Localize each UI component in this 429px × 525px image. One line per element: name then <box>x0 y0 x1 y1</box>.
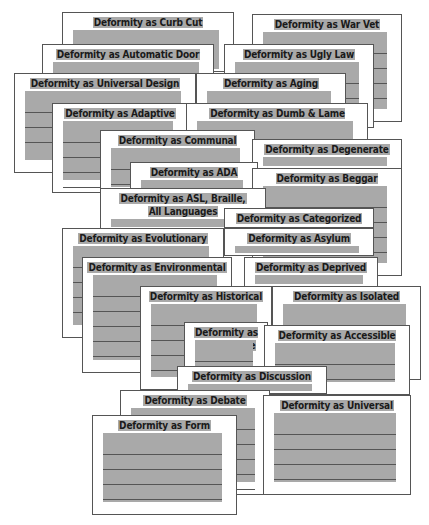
card-universal: Deformity as Universal <box>263 395 411 495</box>
card-title: Deformity as Historical <box>141 290 271 303</box>
card-rule-line <box>274 434 396 435</box>
card-title: Deformity as Debate <box>121 394 269 407</box>
card-fill-area <box>255 275 363 284</box>
card-title: Deformity as ADA <box>131 166 257 179</box>
card-rule-line <box>103 484 222 485</box>
card-fill-area <box>274 413 396 482</box>
card-title: Deformity as Evolutionary <box>63 232 223 245</box>
card-deprived: Deformity as Deprived <box>244 257 378 287</box>
card-title: Deformity as Asylum <box>225 232 373 245</box>
card-rule-line <box>195 361 253 362</box>
card-title: Deformity as Universal <box>264 399 410 412</box>
card-title: Deformity as Deprived <box>245 261 377 274</box>
card-title: Deformity as Environmental <box>83 261 231 274</box>
card-rule-line <box>274 479 396 480</box>
card-title: Deformity as Aging <box>197 77 345 90</box>
card-degenerate: Deformity as Degenerate <box>252 139 402 169</box>
card-title: Deformity as Form <box>93 419 236 432</box>
card-asylum: Deformity as Asylum <box>224 228 374 256</box>
card-rule-line <box>274 449 396 450</box>
card-title: Deformity as Universal Design <box>15 77 195 90</box>
card-title: Deformity as Ugly Law <box>225 48 373 61</box>
card-title: Deformity as Categorized <box>225 212 373 225</box>
card-fill-area <box>263 157 387 166</box>
card-title: Deformity as Isolated <box>273 290 420 303</box>
card-rule-line <box>103 469 222 470</box>
card-title: Deformity as War Vet <box>253 18 401 31</box>
card-categorized: Deformity as Categorized <box>224 208 374 228</box>
card-title: Deformity as Accessible <box>265 329 409 342</box>
card-title: Deformity as Communal <box>101 134 254 147</box>
card-title: Deformity as Curb Cut <box>63 16 233 29</box>
card-rule-line <box>274 464 396 465</box>
card-fill-area <box>235 246 359 253</box>
card-rule-line <box>275 364 395 365</box>
card-title: Deformity as Degenerate <box>253 143 401 156</box>
card-form: Deformity as Form <box>92 415 237 515</box>
card-rule-line <box>103 514 222 515</box>
card-rule-line <box>103 454 222 455</box>
card-title: Deformity as Automatic Door <box>43 48 213 61</box>
card-rule-line <box>103 499 222 500</box>
card-title: Deformity as Adaptive <box>53 107 187 120</box>
card-title: Deformity as Discussion <box>178 370 326 383</box>
card-fill-area <box>103 433 222 502</box>
card-title: Deformity as Beggar <box>253 172 401 185</box>
